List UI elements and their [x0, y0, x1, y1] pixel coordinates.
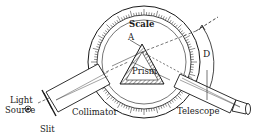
apex-label: A — [128, 33, 134, 42]
prism — [112, 40, 170, 84]
prism-label: Prism — [132, 67, 157, 76]
light-source-label-line1: Light — [10, 96, 33, 105]
scale-label: Scale — [129, 20, 154, 29]
light-source-label-line2: Source — [5, 106, 35, 115]
slit-label: Slit — [40, 125, 55, 134]
telescope-label: Telescope — [177, 107, 220, 116]
deviation-label: D — [203, 50, 210, 59]
collimator-label: Collimator — [72, 108, 118, 117]
